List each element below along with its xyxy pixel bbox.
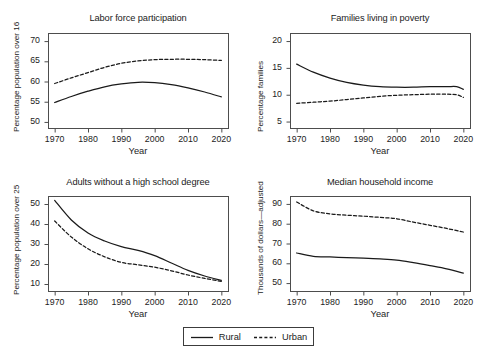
solid-line-icon bbox=[190, 332, 214, 342]
legend-item-rural: Rural bbox=[190, 332, 241, 342]
legend-label: Urban bbox=[282, 332, 307, 342]
chart-legend: RuralUrban bbox=[183, 327, 314, 346]
x-tick-label: 1990 bbox=[346, 297, 380, 307]
dashed-line-icon bbox=[253, 332, 277, 342]
y-tick-label: 50 bbox=[256, 277, 282, 287]
chart-panel-4: Median household incomeThousands of doll… bbox=[0, 0, 485, 359]
legend-label: Rural bbox=[219, 332, 241, 342]
y-tick-label: 60 bbox=[256, 257, 282, 267]
y-tick-label: 80 bbox=[256, 218, 282, 228]
figure-panel-grid: Labor force participationPercentage popu… bbox=[0, 0, 485, 359]
plot-frame bbox=[291, 197, 471, 292]
legend-item-urban: Urban bbox=[253, 332, 307, 342]
y-tick-label: 90 bbox=[256, 198, 282, 208]
series-line-rural bbox=[297, 253, 464, 273]
series-line-urban bbox=[297, 202, 464, 232]
x-tick-label: 2010 bbox=[413, 297, 447, 307]
x-tick-label: 1970 bbox=[280, 297, 314, 307]
x-tick-label: 2020 bbox=[446, 297, 480, 307]
x-tick-label: 1980 bbox=[313, 297, 347, 307]
y-tick-label: 70 bbox=[256, 238, 282, 248]
x-tick-label: 2000 bbox=[380, 297, 414, 307]
